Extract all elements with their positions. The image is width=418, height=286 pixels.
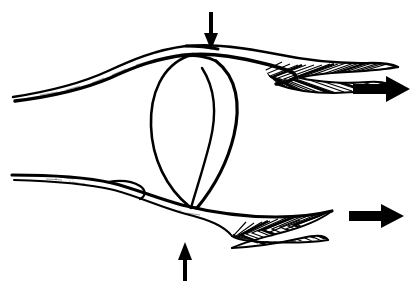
figure-canvas: Pennate muscle-tendon pair with central … bbox=[0, 0, 418, 286]
center-loop-bottom-junction bbox=[190, 207, 197, 208]
arrow-right-upper-shaft bbox=[353, 84, 388, 94]
anatomy-diagram bbox=[0, 0, 418, 286]
arrow-top-shaft bbox=[209, 12, 213, 36]
arrow-right-lower-shaft bbox=[349, 211, 383, 221]
